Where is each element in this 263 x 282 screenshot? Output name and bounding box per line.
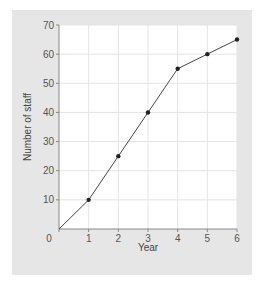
- data-point-marker: [146, 110, 150, 114]
- line-chart: 10203040506070 0123456 Year Number of st…: [0, 0, 263, 282]
- y-tick-label: 60: [43, 49, 55, 60]
- y-tick-label: 50: [43, 78, 55, 89]
- data-point-marker: [175, 67, 179, 71]
- x-tick-label: 5: [205, 233, 211, 244]
- data-point-marker: [86, 198, 90, 202]
- data-point-marker: [205, 52, 209, 56]
- x-tick-label: 4: [175, 233, 181, 244]
- y-tick-label: 70: [43, 20, 55, 31]
- data-point-marker: [116, 154, 120, 158]
- x-tick-label: 1: [86, 233, 92, 244]
- y-axis-title: Number of staff: [22, 93, 33, 161]
- x-tick-label: 0: [46, 233, 52, 244]
- x-axis-title: Year: [138, 242, 159, 253]
- x-tick-label: 2: [116, 233, 122, 244]
- y-tick-label: 30: [43, 136, 55, 147]
- y-tick-label: 40: [43, 107, 55, 118]
- data-point-marker: [235, 37, 239, 41]
- x-tick-label: 6: [234, 233, 240, 244]
- y-tick-label: 20: [43, 165, 55, 176]
- y-tick-label: 10: [43, 194, 55, 205]
